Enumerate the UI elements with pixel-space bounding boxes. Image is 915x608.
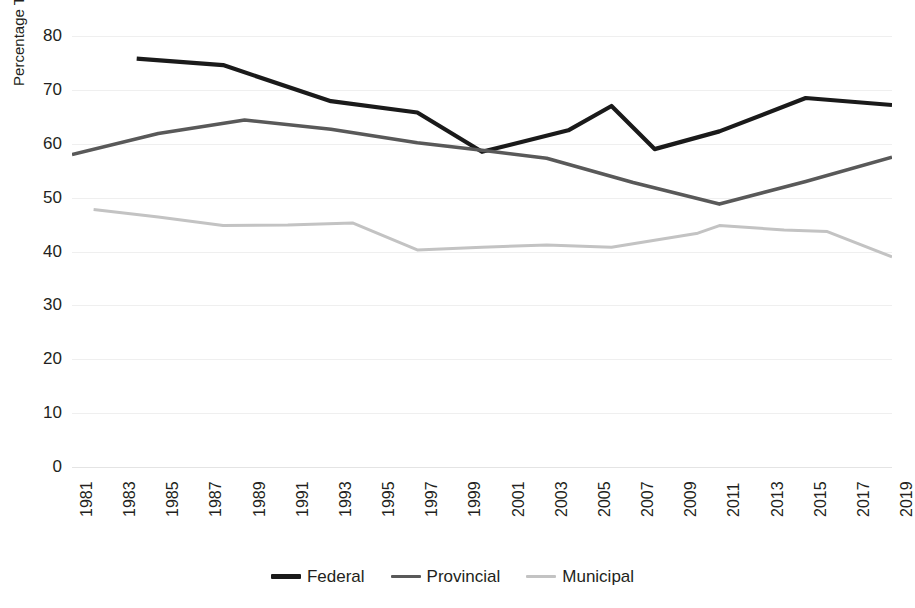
x-tick-label: 2017 [856,481,872,517]
series-line-provincial [72,120,892,204]
x-tick-label: 2005 [597,481,613,517]
x-tick-label: 1997 [424,481,440,517]
x-tick-label: 1983 [122,481,138,517]
x-tick-label: 2007 [640,481,656,517]
x-axis-tick-labels: 1981198319851987198919911993199519971999… [72,470,892,550]
y-tick-label: 70 [10,81,62,98]
y-tick-label: 60 [10,135,62,152]
y-tick-label: 40 [10,243,62,260]
chart-legend: FederalProvincialMunicipal [0,568,905,585]
series-layer [72,36,892,467]
y-tick-label: 0 [10,458,62,475]
x-tick-label: 2009 [683,481,699,517]
x-tick-label: 2019 [899,481,915,517]
legend-label: Municipal [562,568,634,585]
legend-label: Provincial [427,568,501,585]
y-tick-label: 30 [10,296,62,313]
gridline [72,467,892,468]
x-tick-label: 2011 [726,483,742,517]
series-line-federal [137,59,892,152]
legend-label: Federal [307,568,365,585]
legend-swatch-icon [391,575,421,579]
series-line-municipal [94,210,892,257]
legend-swatch-icon [526,575,556,578]
x-tick-label: 1989 [252,481,268,517]
x-tick-label: 1981 [79,481,95,517]
x-tick-label: 2003 [554,481,570,517]
x-tick-label: 2015 [813,481,829,517]
plot-area [72,36,892,467]
x-tick-label: 1993 [338,481,354,517]
x-tick-label: 1991 [295,481,311,517]
y-tick-label: 80 [10,27,62,44]
x-tick-label: 2013 [770,481,786,517]
x-tick-label: 1987 [208,481,224,517]
legend-item-provincial[interactable]: Provincial [391,568,501,585]
y-tick-label: 50 [10,189,62,206]
legend-swatch-icon [271,574,301,578]
x-tick-label: 2001 [511,481,527,517]
legend-item-federal[interactable]: Federal [271,568,365,585]
y-axis-tick-labels: 01020304050607080 [10,36,62,467]
y-tick-label: 10 [10,404,62,421]
x-tick-label: 1995 [381,481,397,517]
x-tick-label: 1985 [165,481,181,517]
x-tick-label: 1999 [467,481,483,517]
legend-item-municipal[interactable]: Municipal [526,568,634,585]
y-tick-label: 20 [10,350,62,367]
